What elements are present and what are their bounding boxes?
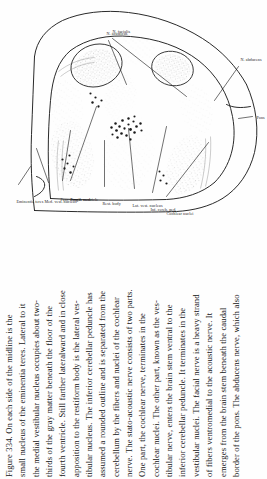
caption-line: emerges from the brain stem beneath the … (217, 224, 230, 477)
figure-label: Fourth ventricle (70, 196, 98, 201)
caption-line: tibular nerve, enters the brain stem ven… (163, 224, 176, 477)
caption-line: vestibular nuclei. The facial nerve is a… (190, 224, 203, 477)
caption-body: Figure 334. On each side of the midline … (3, 224, 243, 477)
figure-plate-rotation-container: Eminentia teres Med. vest. nucleus Fasc.… (0, 0, 267, 226)
caption-line: the medial vestibular nucleus occupies a… (30, 224, 43, 477)
figure-plate: Eminentia teres Med. vest. nucleus Fasc.… (0, 0, 267, 226)
caption-line: tibular nucleus. The inferior cerebellar… (83, 224, 96, 477)
caption-line: apposition to the restiform body is the … (70, 224, 83, 477)
caption-line: border of the pons. The abducens nerve, … (230, 224, 243, 477)
brain-stem-section-illustration: Eminentia teres Med. vest. nucleus Fasc.… (0, 0, 267, 226)
figure-label: Eminentia teres (16, 198, 43, 203)
caption-line: fourth ventricle. Still farther lateralw… (56, 224, 69, 477)
caption-line: small nucleus of the eminentia teres. La… (16, 224, 29, 477)
caption-line: cerebellum by the fibers and nuclei of t… (110, 224, 123, 477)
caption-line: Figure 334. On each side of the midline … (3, 224, 16, 477)
caption-line: One part, the cochlear nerve, terminates… (136, 224, 149, 477)
figure-label: Cochlear nuclei (166, 210, 194, 215)
caption-line: inferior cerebellar peduncle. It termina… (176, 224, 189, 477)
caption-line: nerve. The stato-acoustic nerve consists… (123, 224, 136, 477)
caption-line: thirds of the gray matter beneath the fl… (43, 224, 56, 477)
figure-label: Pons (256, 114, 265, 119)
figure-caption: Figure 334. On each side of the midline … (0, 222, 267, 479)
caption-line: cochlear nuclei. The other part, known a… (150, 224, 163, 477)
caption-rotation-container: Figure 334. On each side of the midline … (0, 222, 267, 479)
caption-line: assumed a rounded outline and is separat… (96, 224, 109, 477)
book-page: Eminentia teres Med. vest. nucleus Fasc.… (0, 0, 267, 479)
figure-label: N. facialis (112, 28, 130, 33)
figure-label: Rest. body (102, 200, 121, 205)
caption-line: of fibers ventromedial to the acoustic n… (203, 224, 216, 477)
figure-label: N. abducens (240, 56, 261, 61)
